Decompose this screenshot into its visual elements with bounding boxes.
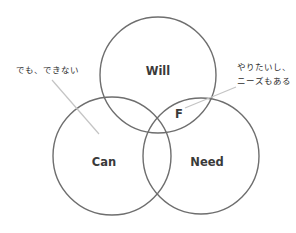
can-label: Can [92, 155, 116, 169]
intersection-label: F [175, 107, 183, 121]
venn-diagram: Will Can Need F でも、できない やりたいし、 ニーズもある [0, 0, 296, 233]
annotation-want-line2: ニーズもある [237, 76, 291, 86]
will-label: Will [146, 64, 171, 78]
need-label: Need [190, 155, 223, 169]
annotation-want-line1: やりたいし、 [237, 62, 291, 72]
annotation-cannot: でも、できない [16, 65, 79, 75]
leader-line-cannot [52, 80, 99, 134]
